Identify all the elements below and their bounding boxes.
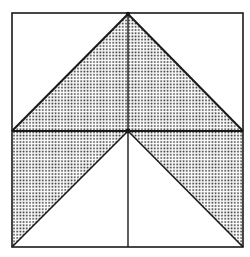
geometric-figure	[0, 0, 250, 257]
apex-point	[126, 12, 130, 16]
center-point	[126, 129, 131, 134]
